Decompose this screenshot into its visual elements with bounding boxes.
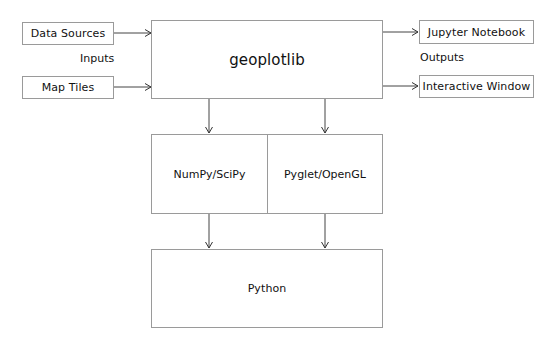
dependency-pyglet-opengl: Pyglet/OpenGL [268, 135, 382, 213]
dependency-numpy-scipy-label: NumPy/SciPy [174, 168, 246, 181]
base-python-label: Python [248, 282, 287, 295]
output-jupyter-notebook-label: Jupyter Notebook [428, 26, 525, 39]
dependency-numpy-scipy: NumPy/SciPy [152, 135, 268, 213]
outputs-heading: Outputs [420, 51, 464, 64]
dependency-pyglet-opengl-label: Pyglet/OpenGL [284, 168, 366, 181]
output-interactive-window-label: Interactive Window [423, 80, 531, 93]
input-map-tiles-label: Map Tiles [42, 81, 95, 94]
core-geoplotlib-label: geoplotlib [229, 51, 305, 69]
inputs-heading: Inputs [80, 52, 114, 65]
core-geoplotlib: geoplotlib [151, 20, 383, 99]
output-interactive-window: Interactive Window [419, 75, 534, 98]
input-map-tiles: Map Tiles [22, 76, 114, 99]
base-python: Python [151, 249, 383, 328]
output-jupyter-notebook: Jupyter Notebook [419, 20, 534, 44]
dependencies-box: NumPy/SciPy Pyglet/OpenGL [151, 134, 383, 214]
input-data-sources-label: Data Sources [31, 27, 105, 40]
input-data-sources: Data Sources [22, 22, 114, 45]
